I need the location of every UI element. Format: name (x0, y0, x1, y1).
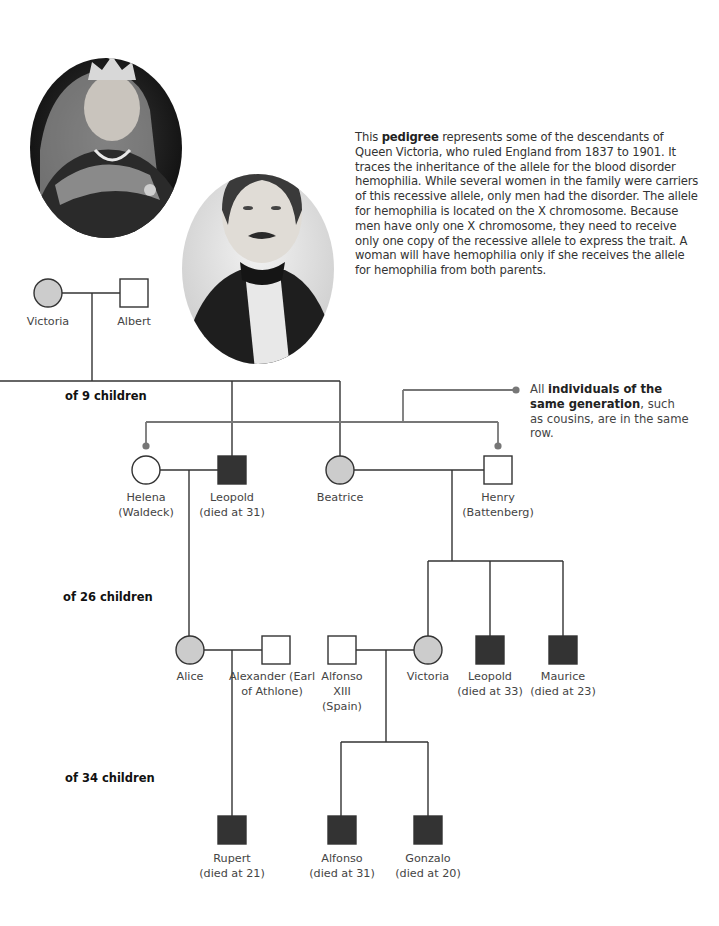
description-text: represents some of the descendants of Qu… (355, 130, 698, 277)
alfonso-xiii-male-symbol (328, 636, 356, 664)
person-label-helena: Helena(Waldeck) (118, 491, 174, 521)
person-name: Henry (462, 491, 534, 506)
generation-label-3: of 34 children (65, 771, 155, 785)
person-label-leopold: Leopold(died at 31) (199, 491, 265, 521)
leopold-affected-male-symbol (218, 456, 246, 484)
person-name: Alexander (Earl (229, 670, 315, 685)
victoria-portrait (30, 52, 182, 250)
person-label-maurice: Maurice(died at 23) (530, 670, 596, 700)
callout-prefix: All (530, 382, 548, 396)
person-name: Albert (117, 315, 151, 330)
person-detail: (died at 23) (530, 685, 596, 700)
person-detail: (Battenberg) (462, 506, 534, 521)
description-keyword: pedigree (382, 130, 439, 144)
pedigree-lines (0, 293, 563, 816)
person-name: Leopold (457, 670, 523, 685)
person-detail: (died at 20) (395, 867, 461, 882)
person-name: Victoria (27, 315, 69, 330)
alfonso-affected-male-symbol (328, 816, 356, 844)
generation-label-1: of 9 children (65, 389, 147, 403)
person-name: Helena (118, 491, 174, 506)
person-name: Rupert (199, 852, 265, 867)
alice-carrier-female-symbol (176, 636, 204, 664)
person-detail: (died at 21) (199, 867, 265, 882)
albert-portrait (180, 165, 340, 380)
person-label-leopold-battenberg: Leopold(died at 33) (457, 670, 523, 700)
person-name: Victoria (407, 670, 449, 685)
person-label-gonzalo: Gonzalo(died at 20) (395, 852, 461, 882)
gonzalo-affected-male-symbol (414, 816, 442, 844)
beatrice-carrier-female-symbol (326, 456, 354, 484)
person-detail: (Spain) (321, 700, 362, 715)
person-detail: (died at 31) (199, 506, 265, 521)
callout-dot-icon (512, 386, 519, 393)
person-name: Gonzalo (395, 852, 461, 867)
callout-dot-icon (494, 442, 501, 449)
helena-female-symbol (132, 456, 160, 484)
callout-dots (142, 386, 519, 449)
person-detail: XIII (321, 685, 362, 700)
rupert-affected-male-symbol (218, 816, 246, 844)
person-detail: (died at 33) (457, 685, 523, 700)
albert-male-symbol (120, 279, 148, 307)
person-label-henry: Henry(Battenberg) (462, 491, 534, 521)
generation-callout-note: All individuals of the same generation, … (530, 382, 690, 441)
victoria-carrier-female-symbol (34, 279, 62, 307)
person-label-alexander: Alexander (Earlof Athlone) (229, 670, 315, 700)
generation-callout-lines (146, 390, 515, 446)
generation-label-2: of 26 children (63, 590, 153, 604)
person-detail: (Waldeck) (118, 506, 174, 521)
person-name: Alfonso (321, 670, 362, 685)
henry-male-symbol (484, 456, 512, 484)
person-label-albert: Albert (117, 315, 151, 330)
person-label-rupert: Rupert(died at 21) (199, 852, 265, 882)
person-name: Alfonso (309, 852, 375, 867)
person-label-beatrice: Beatrice (317, 491, 364, 506)
person-detail: of Athlone) (229, 685, 315, 700)
leopold-battenberg-affected-male-symbol (476, 636, 504, 664)
person-detail: (died at 31) (309, 867, 375, 882)
alexander-male-symbol (262, 636, 290, 664)
person-label-alfonso: Alfonso(died at 31) (309, 852, 375, 882)
callout-dot-icon (142, 442, 149, 449)
person-name: Leopold (199, 491, 265, 506)
person-label-victoria-eugenie: Victoria (407, 670, 449, 685)
pedigree-description: This pedigree represents some of the des… (355, 130, 700, 278)
person-label-alfonso-xiii: AlfonsoXIII(Spain) (321, 670, 362, 714)
person-label-victoria: Victoria (27, 315, 69, 330)
victoria-eugenie-carrier-female-symbol (414, 636, 442, 664)
person-name: Beatrice (317, 491, 364, 506)
description-prefix: This (355, 130, 382, 144)
person-name: Maurice (530, 670, 596, 685)
person-name: Alice (177, 670, 204, 685)
person-label-alice: Alice (177, 670, 204, 685)
maurice-affected-male-symbol (549, 636, 577, 664)
